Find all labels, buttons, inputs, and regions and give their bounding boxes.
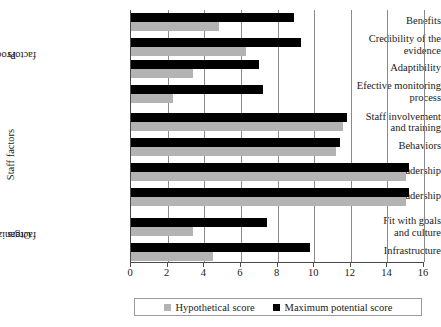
bar-maximum-potential-score <box>131 218 267 227</box>
bar-hypothetical-score <box>131 122 343 131</box>
bar-hypothetical-score <box>131 94 173 103</box>
bar-hypothetical-score <box>131 197 406 206</box>
bar-maximum-potential-score <box>131 188 409 197</box>
bar-hypothetical-score <box>131 147 336 156</box>
bar-maximum-potential-score <box>131 138 340 147</box>
gridline <box>351 10 352 262</box>
bar-hypothetical-score <box>131 47 246 56</box>
bar-maximum-potential-score <box>131 163 409 172</box>
grouped-bar-chart: Process factors Staff factors Organizati… <box>0 0 441 327</box>
x-axis-tick-label: 0 <box>127 267 132 278</box>
bar-hypothetical-score <box>131 22 219 31</box>
group-label-org-line2: factors <box>0 230 70 241</box>
x-axis-tick-label: 4 <box>201 267 206 278</box>
bar-maximum-potential-score <box>131 85 263 94</box>
legend-label-maximum: Maximum potential score <box>285 302 393 313</box>
gridline <box>424 10 425 262</box>
gridline <box>314 10 315 262</box>
bar-hypothetical-score <box>131 227 193 236</box>
bar-maximum-potential-score <box>131 60 259 69</box>
legend-item-maximum: Maximum potential score <box>273 302 393 313</box>
group-label-organizational-factors: Organizational factors <box>2 208 20 262</box>
x-axis-tick-label: 16 <box>418 267 429 278</box>
gridline <box>387 10 388 262</box>
bar-hypothetical-score <box>131 172 406 181</box>
group-label-staff-text: Staff factors <box>6 128 17 179</box>
x-axis-tick-label: 2 <box>164 267 169 278</box>
bar-hypothetical-score <box>131 69 193 78</box>
x-axis-tick-label: 14 <box>381 267 392 278</box>
plot-area <box>130 10 423 262</box>
legend-swatch-hypothetical-icon <box>164 304 171 311</box>
bar-maximum-potential-score <box>131 13 294 22</box>
gridline <box>278 10 279 262</box>
legend-swatch-maximum-icon <box>273 304 280 311</box>
chart-legend: Hypothetical score Maximum potential sco… <box>134 298 422 316</box>
group-label-process-factors: Process factors <box>2 10 20 100</box>
bar-maximum-potential-score <box>131 38 301 47</box>
bar-maximum-potential-score <box>131 113 347 122</box>
bar-maximum-potential-score <box>131 243 310 252</box>
legend-item-hypothetical: Hypothetical score <box>164 302 255 313</box>
x-axis-tick-label: 6 <box>237 267 242 278</box>
legend-label-hypothetical: Hypothetical score <box>176 302 255 313</box>
group-label-process-line2: factors <box>0 50 70 61</box>
x-axis-tick-label: 10 <box>308 267 319 278</box>
bar-hypothetical-score <box>131 252 213 261</box>
x-axis-tick-label: 12 <box>345 267 356 278</box>
x-axis-tick-label: 8 <box>274 267 279 278</box>
